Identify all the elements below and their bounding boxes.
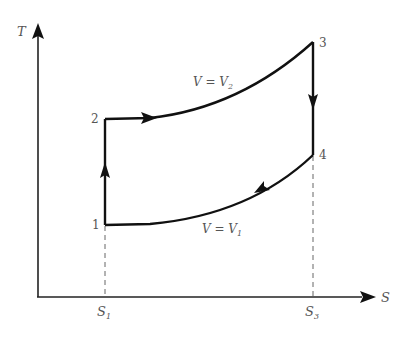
cycle-path [105,42,313,225]
point-label-4: 4 [319,148,327,162]
curve-label-v2-text: V = V2 [193,75,233,91]
process-4-1 [105,155,313,225]
axes [32,23,376,303]
y-axis-label: T [17,24,27,39]
curve-label-v1: V = V1 [202,222,242,238]
point-label-3: 3 [319,36,327,50]
point-label-1: 1 [92,218,100,232]
point-label-2: 2 [91,112,99,126]
curve-label-v1-text: V = V1 [202,222,242,238]
curve-label-v2: V = V2 [193,75,233,91]
tick-label-s1: S1 [97,304,111,321]
arrow-left-icon [254,181,270,193]
x-axis-label: S [381,290,390,305]
tick-label-s3: S3 [305,304,319,321]
ts-diagram: T S 1 2 3 4 V = V2 V = V1 S1 S3 [0,0,408,337]
x-axis-arrow-icon [360,291,376,303]
